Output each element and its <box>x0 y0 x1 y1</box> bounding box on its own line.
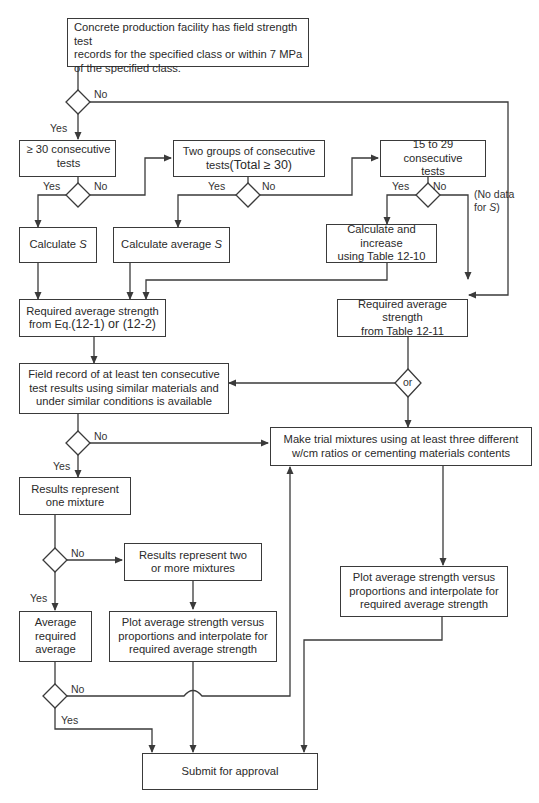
node-req-eq-line-1: Required average strength <box>26 305 158 319</box>
label-no-2: No <box>94 180 107 192</box>
label-or: or <box>403 376 412 388</box>
node-15-line-1: 15 to 29 consecutive <box>385 138 481 165</box>
node-one-mix-line-1: Results represent <box>31 483 119 497</box>
label-yes-6: Yes <box>30 592 47 604</box>
node-two-mix-line-2: or more mixtures <box>151 562 235 576</box>
node-req-table-line-1: Required average strength <box>342 298 463 325</box>
label-no-3: No <box>262 180 275 192</box>
node-two-mix-line-1: Results represent two <box>139 549 247 563</box>
node-avg-line-2: required <box>35 630 76 644</box>
node-start: Concrete production facility has field s… <box>67 18 309 67</box>
label-yes-1: Yes <box>50 122 67 134</box>
node-calc-inc-line-2: using Table 12-10 <box>337 250 425 264</box>
node-required-average-table: Required average strength from Table 12-… <box>337 299 468 337</box>
label-no-5: No <box>94 430 107 442</box>
node-plot-left-line-3: required average strength <box>129 643 257 657</box>
node-req-table-line-2: from Table 12-11 <box>361 325 444 339</box>
node-two-groups: Two groups of consecutive tests(Total ≥ … <box>173 140 325 177</box>
label-no-7: No <box>71 683 84 695</box>
node-plot-right-line-2: proportions and interpolate for <box>349 585 498 599</box>
node-two-groups-line-2: tests(Total ≥ 30) <box>206 159 292 173</box>
label-yes-2: Yes <box>43 180 60 192</box>
label-yes-3: Yes <box>208 180 225 192</box>
label-yes-4: Yes <box>392 180 409 192</box>
label-yes-5: Yes <box>53 460 70 472</box>
node-plot-right-line-3: required average strength <box>360 598 488 612</box>
node-avg-line-3: average <box>35 643 75 657</box>
node-trial-line-2: w/cm ratios or cementing materials conte… <box>292 447 510 461</box>
node-calc-inc-line-1: Calculate and increase <box>331 223 432 250</box>
node-req-eq-line-2: from Eq.(12-1) or (12-2) <box>29 318 156 332</box>
node-30-consecutive-tests: ≥ 30 consecutive tests <box>19 140 116 177</box>
node-15-line-2: tests <box>421 165 445 179</box>
node-30-line-2: tests <box>57 157 81 171</box>
node-plot-right-line-1: Plot average strength versus <box>353 571 495 585</box>
node-required-average-eq: Required average strength from Eq.(12-1)… <box>19 299 166 337</box>
node-results-two-mixtures: Results represent two or more mixtures <box>124 543 262 581</box>
label-no-data-for-s: (No data for S) <box>474 188 514 214</box>
node-start-line-3: of the specified class. <box>74 62 181 76</box>
node-make-trial-mixtures: Make trial mixtures using at least three… <box>270 427 532 466</box>
node-plot-right: Plot average strength versus proportions… <box>340 566 508 617</box>
node-plot-left-line-1: Plot average strength versus <box>122 616 264 630</box>
node-15-29-consecutive-tests: 15 to 29 consecutive tests <box>380 140 486 177</box>
node-calculate-and-increase: Calculate and increase using Table 12-10 <box>326 224 437 263</box>
node-field-line-1: Field record of at least ten consecutive <box>28 368 220 382</box>
node-avg-line-1: Average <box>35 616 76 630</box>
node-calculate-s: Calculate S <box>19 227 97 263</box>
node-plot-left-line-2: proportions and interpolate for <box>118 630 267 644</box>
decision-diamond-1 <box>66 90 90 114</box>
node-submit-for-approval: Submit for approval <box>142 753 318 790</box>
label-no-4: No <box>433 180 446 192</box>
node-30-line-1: ≥ 30 consecutive <box>27 143 111 157</box>
label-yes-7: Yes <box>61 714 78 726</box>
label-no-6: No <box>71 547 84 559</box>
node-average-required-average: Average required average <box>19 611 92 662</box>
node-field-line-2: test results using similar materials and <box>29 382 219 396</box>
node-results-one-mixture: Results represent one mixture <box>19 477 131 515</box>
node-start-line-1: Concrete production facility has field s… <box>74 21 304 48</box>
node-field-line-3: under similar conditions is available <box>36 395 212 409</box>
node-trial-line-1: Make trial mixtures using at least three… <box>284 433 519 447</box>
node-start-line-2: records for the specified class or withi… <box>74 48 302 62</box>
node-two-groups-line-1: Two groups of consecutive <box>183 145 315 159</box>
node-calculate-average-s: Calculate average S <box>113 227 230 263</box>
node-one-mix-line-2: one mixture <box>46 496 104 510</box>
node-plot-left: Plot average strength versus proportions… <box>109 611 277 662</box>
node-field-record: Field record of at least ten consecutive… <box>19 363 229 414</box>
label-no-1: No <box>94 88 107 100</box>
